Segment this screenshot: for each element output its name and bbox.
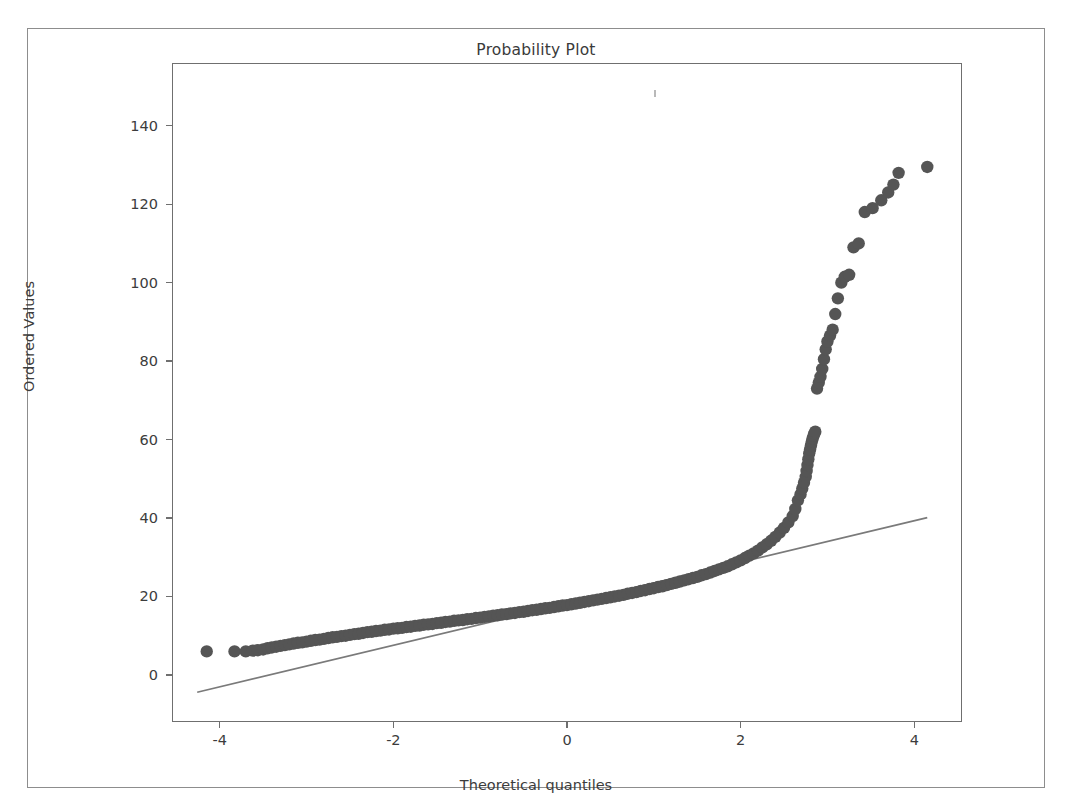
x-tick-label: 4 (910, 732, 919, 748)
y-tick-mark (166, 204, 172, 205)
probability-plot-figure: Probability Plot 020406080100120140 -4-2… (27, 28, 1045, 788)
x-tick-mark (566, 722, 567, 728)
data-point (809, 426, 821, 438)
y-tick-mark (166, 439, 172, 440)
y-tick-mark (166, 517, 172, 518)
x-tick-label: 0 (562, 732, 571, 748)
data-point (843, 269, 855, 281)
x-tick-label: -2 (386, 732, 400, 748)
y-tick-label: 60 (102, 432, 158, 448)
data-point (829, 308, 841, 320)
y-tick-label: 140 (102, 118, 158, 134)
y-tick-label: 40 (102, 510, 158, 526)
plot-canvas (172, 63, 962, 722)
y-tick-label: 100 (102, 275, 158, 291)
screenshot-page: Probability Plot 020406080100120140 -4-2… (0, 0, 1067, 810)
y-tick-mark (166, 360, 172, 361)
x-tick-mark (914, 722, 915, 728)
data-points (201, 161, 934, 658)
y-tick-mark (166, 282, 172, 283)
x-tick-mark (219, 722, 220, 728)
y-tick-label: 20 (102, 588, 158, 604)
data-point (892, 167, 904, 179)
x-tick-mark (740, 722, 741, 728)
y-tick-label: 0 (102, 667, 158, 683)
x-tick-mark (393, 722, 394, 728)
page-title: Probability Plot (27, 41, 1045, 59)
data-point (826, 324, 838, 336)
y-tick-label: 80 (102, 353, 158, 369)
data-point (201, 645, 213, 657)
scan-speck (654, 90, 656, 97)
y-tick-mark (166, 125, 172, 126)
y-tick-mark (166, 674, 172, 675)
data-point (852, 237, 864, 249)
data-point (832, 292, 844, 304)
y-tick-mark (166, 596, 172, 597)
y-axis-label: Ordered Values (21, 281, 37, 392)
x-tick-label: 2 (736, 732, 745, 748)
y-tick-label: 120 (102, 196, 158, 212)
data-point (887, 178, 899, 190)
data-point (228, 645, 240, 657)
x-tick-label: -4 (213, 732, 227, 748)
data-point (921, 161, 933, 173)
x-axis-label: Theoretical quantiles (27, 777, 1045, 793)
